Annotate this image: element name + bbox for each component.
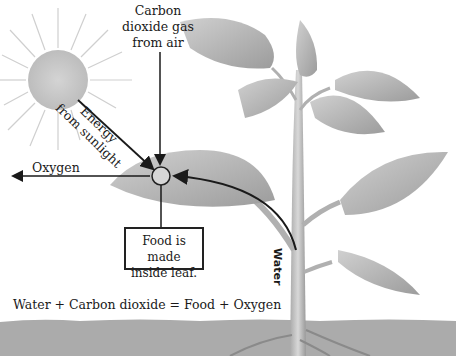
chloroplast-icon	[152, 167, 170, 185]
food-label-box: Food is made inside leaf.	[124, 227, 204, 270]
oxygen-label: Oxygen	[32, 160, 80, 175]
soil	[0, 320, 456, 356]
food-line-1: Food is made	[126, 233, 202, 265]
carbon-dioxide-label: Carbon dioxide gas from air	[118, 3, 198, 51]
co2-line-3: from air	[118, 35, 198, 51]
food-line-2: inside leaf.	[126, 265, 202, 281]
equation-text: Water + Carbon dioxide = Food + Oxygen	[13, 297, 281, 312]
co2-line-2: dioxide gas	[118, 19, 198, 35]
water-label: Water	[271, 248, 284, 285]
co2-line-1: Carbon	[118, 3, 198, 19]
